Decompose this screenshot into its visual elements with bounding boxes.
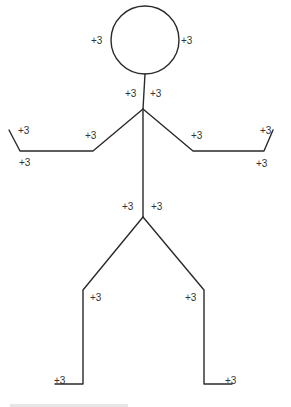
label-right-knee: +3 bbox=[185, 293, 196, 303]
label-left-hand-top: +3 bbox=[18, 126, 29, 136]
label-right-hand-bottom: +3 bbox=[256, 159, 267, 169]
stick-figure-diagram bbox=[0, 0, 291, 407]
label-neck-right: +3 bbox=[150, 89, 161, 99]
spine-line bbox=[143, 74, 145, 217]
label-left-foot: +3 bbox=[54, 376, 65, 386]
label-head-right: +3 bbox=[181, 36, 192, 46]
label-right-hand-top: +3 bbox=[260, 126, 271, 136]
label-right-foot: +3 bbox=[225, 376, 236, 386]
label-left-hand-bottom: +3 bbox=[19, 158, 30, 168]
right-arm-line bbox=[143, 109, 273, 151]
head-circle bbox=[111, 6, 179, 74]
label-left-knee: +3 bbox=[90, 293, 101, 303]
label-hip-left: +3 bbox=[122, 202, 133, 212]
label-left-elbow: +3 bbox=[85, 131, 96, 141]
label-hip-right: +3 bbox=[151, 202, 162, 212]
label-neck-left: +3 bbox=[125, 89, 136, 99]
label-head-left: +3 bbox=[91, 36, 102, 46]
label-right-elbow: +3 bbox=[191, 131, 202, 141]
